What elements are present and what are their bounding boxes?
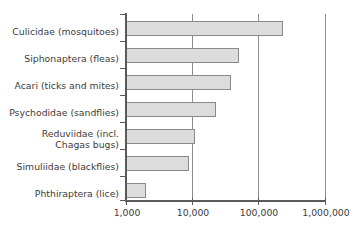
category-label-acari: Acari (ticks and mites) — [0, 80, 119, 91]
x-axis-line — [125, 200, 326, 202]
y-axis-tick — [120, 41, 126, 42]
bar-simuliidae — [126, 156, 189, 171]
bar-culicidae — [126, 21, 283, 36]
x-axis-tick — [192, 198, 193, 205]
bar-reduviidae — [126, 129, 195, 144]
y-axis-tick — [120, 149, 126, 150]
x-axis-tick — [258, 198, 259, 205]
y-axis-tick — [120, 95, 126, 96]
y-axis-tick — [120, 176, 126, 177]
category-label-phthiraptera: Phthiraptera (lice) — [0, 188, 119, 199]
category-label-siphonaptera: Siphonaptera (fleas) — [0, 53, 119, 64]
bar-siphonaptera — [126, 48, 239, 63]
bar-acari — [126, 75, 231, 90]
x-axis-tick — [126, 198, 127, 205]
x-axis-tick — [325, 198, 326, 205]
gridline-100000 — [258, 14, 259, 201]
y-axis-tick — [120, 122, 126, 123]
x-tick-label-1000000: 1,000,000 — [286, 207, 358, 218]
category-label-culicidae: Culicidae (mosquitoes) — [0, 26, 119, 37]
bar-chart: Culicidae (mosquitoes) Siphonaptera (fle… — [0, 0, 358, 240]
category-label-simuliidae: Simuliidae (blackflies) — [0, 161, 119, 172]
bar-phthiraptera — [126, 183, 146, 198]
category-label-reduviidae: Reduviidae (incl. Chagas bugs) — [0, 128, 119, 150]
y-axis-tick — [120, 68, 126, 69]
y-axis-tick — [120, 14, 126, 15]
plot-area — [126, 14, 326, 201]
gridline-1000000 — [325, 14, 326, 201]
bar-psychodidae — [126, 102, 216, 117]
category-label-psychodidae: Psychodidae (sandflies) — [0, 107, 119, 118]
